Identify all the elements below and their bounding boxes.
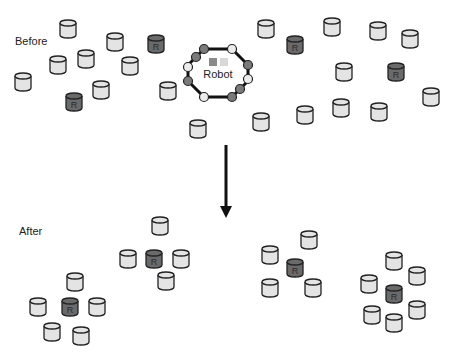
puck-icon [262,279,278,297]
robot-sensor-icon [228,93,237,102]
robot-puck-icon: R [287,36,303,54]
puck-icon [122,57,138,75]
robot-sensor-icon [200,93,209,102]
robot-puck-icon: R [148,35,164,53]
svg-text:R: R [67,305,74,315]
puck-icon [409,301,425,319]
pucks-after-group: RRRR [30,217,425,345]
robot-label: Robot [203,68,232,80]
puck-icon [386,314,402,332]
puck-icon [78,50,94,68]
indicator-dark-icon [209,58,217,66]
robot-puck-icon: R [287,259,303,277]
puck-icon [258,20,274,38]
puck-icon [386,252,402,270]
robot-sensor-icon [236,85,245,94]
down-arrow-icon [220,145,232,218]
robot-sensor-icon [244,61,253,70]
robot-puck-icon: R [66,93,82,111]
puck-icon [370,22,386,40]
puck-icon [173,250,189,268]
puck-icon [371,103,387,121]
svg-text:R: R [153,42,160,52]
puck-icon [152,217,168,235]
robot-sensor-icon [200,45,209,54]
svg-text:R: R [391,292,398,302]
puck-icon [423,88,439,106]
puck-icon [190,120,206,138]
puck-icon [301,231,317,249]
puck-icon [253,113,269,131]
robot-sensor-icon [184,63,193,72]
puck-icon [158,272,174,290]
svg-text:R: R [292,266,299,276]
puck-icon [50,56,66,74]
after-label: After [19,225,42,237]
robot-sensor-icon [244,75,253,84]
robot-sensor-icon [192,53,201,62]
svg-text:R: R [71,100,78,110]
puck-icon [160,82,176,100]
puck-icon [364,306,380,324]
robot-puck-icon: R [386,285,402,303]
puck-icon [402,30,418,48]
puck-icon [262,246,278,264]
robot-puck-icon: R [388,63,404,81]
robot-puck-icon: R [146,250,162,268]
diagram-canvas: RRRR RRRR Robot [0,0,452,362]
svg-text:R: R [393,70,400,80]
puck-icon [89,298,105,316]
puck-icon [361,275,377,293]
puck-icon [297,106,313,124]
robot-sensor-icon [184,77,193,86]
before-label: Before [15,35,47,47]
puck-icon [73,327,89,345]
puck-icon [44,323,60,341]
puck-icon [333,99,349,117]
puck-icon [107,33,123,51]
puck-icon [60,20,76,38]
svg-text:R: R [292,43,299,53]
puck-icon [30,298,46,316]
puck-icon [305,279,321,297]
indicator-light-icon [220,58,228,66]
puck-icon [409,267,425,285]
robot: Robot [184,45,253,102]
puck-icon [336,63,352,81]
puck-icon [15,73,31,91]
robot-puck-icon: R [62,298,78,316]
svg-text:R: R [151,257,158,267]
puck-icon [93,81,109,99]
robot-sensor-icon [228,45,237,54]
puck-icon [67,273,83,291]
puck-icon [324,18,340,36]
puck-icon [120,250,136,268]
